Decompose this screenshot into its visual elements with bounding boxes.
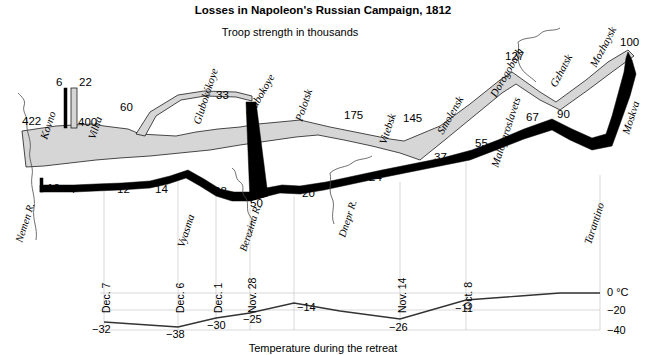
river-berezina: Berezina R.: [237, 203, 262, 253]
temp-value-minus32: −32: [92, 323, 111, 335]
advance-branch-22: [71, 88, 77, 128]
advance-label-422: 422: [22, 115, 41, 127]
temp-date-dec7: Dec. 7: [100, 282, 112, 313]
advance-label-22: 22: [79, 76, 92, 88]
minard-svg: Losses in Napoleon's Russian Campaign, 1…: [0, 0, 647, 355]
temp-date-oct8: Oct. 8: [462, 282, 474, 310]
river-dnepr: Dnepr R.: [336, 199, 359, 240]
retreat-label-55: 55: [475, 137, 488, 149]
temp-ytick-minus40: −40: [607, 324, 626, 336]
retreat-flow-band: [40, 52, 636, 201]
temp-value-minus14: −14: [297, 301, 316, 313]
advance-label-100: 100: [620, 36, 639, 48]
temp-value-minus26: −26: [389, 321, 408, 333]
temp-date-nov28: Nov. 28: [246, 277, 258, 313]
retreat-label-14: 14: [155, 183, 168, 195]
advance-flow-band: [22, 50, 634, 167]
retreat-label-67: 67: [526, 111, 539, 123]
retreat-label-28: 28: [214, 185, 227, 197]
temp-date-dec1: Dec. 1: [212, 282, 224, 313]
page-title: Losses in Napoleon's Russian Campaign, 1…: [195, 4, 451, 16]
temperature-chart: 0 °C −20 −40 −32 −38 −30 −25 −14 −26 −11…: [92, 277, 629, 340]
river-nemen: Nemen R.: [13, 201, 36, 244]
temp-date-dec6: Dec. 6: [174, 282, 186, 313]
retreat-label-4: 4: [69, 183, 76, 195]
advance-label-6: 6: [56, 76, 62, 88]
temp-value-minus30: −30: [207, 319, 226, 331]
retreat-label-12: 12: [117, 183, 130, 195]
temp-ytick-0: 0 °C: [607, 286, 629, 298]
advance-label-60: 60: [120, 101, 133, 113]
advance-label-33: 33: [216, 89, 229, 101]
city-vitebsk: Polotsk: [292, 86, 314, 123]
retreat-label-10: 10: [47, 182, 60, 194]
retreat-label-20: 20: [302, 187, 315, 199]
retreat-kovno-stub: [40, 178, 43, 192]
temp-value-minus38: −38: [166, 328, 185, 340]
city-maloyaroslavets: Tarantino: [581, 201, 606, 246]
retreat-label-37: 37: [434, 151, 447, 163]
retreat-label-24: 24: [369, 171, 382, 183]
advance-strength-labels: 422 400 6 22 60 33 175 145 127 100: [22, 36, 639, 128]
advance-label-145: 145: [403, 112, 422, 124]
retreat-label-90: 90: [557, 108, 570, 120]
temp-date-nov14: Nov. 14: [396, 277, 408, 313]
advance-label-175: 175: [344, 109, 363, 121]
temp-ytick-minus20: −20: [607, 304, 626, 316]
temp-value-minus25: −25: [243, 313, 262, 325]
page-subtitle: Troop strength in thousands: [222, 26, 359, 38]
chart-caption: Temperature during the retreat: [249, 342, 398, 354]
minard-diagram: Losses in Napoleon's Russian Campaign, 1…: [0, 0, 647, 355]
advance-branch-6: [64, 88, 67, 128]
city-mozhaysk: Gzhatsk: [547, 51, 575, 89]
